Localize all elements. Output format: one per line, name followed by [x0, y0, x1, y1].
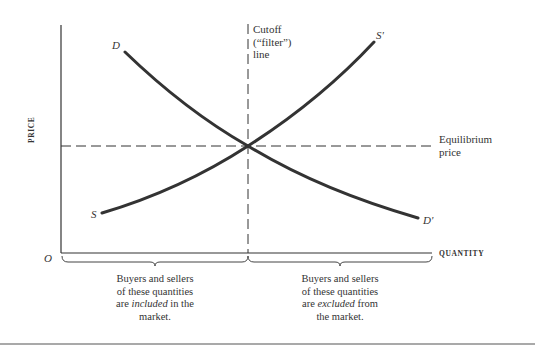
excluded-pre: are — [302, 298, 317, 309]
x-axis-label: QUANTITY — [439, 248, 484, 260]
cutoff-label-line2: (“filter”) — [253, 36, 291, 49]
excluded-caption-line2: of these quantities — [275, 286, 405, 299]
demand-start-label: D — [112, 39, 120, 51]
cutoff-label-line3: line — [253, 48, 291, 61]
demand-end-label: D' — [423, 214, 433, 226]
cutoff-label-line1: Cutoff — [253, 23, 291, 36]
excluded-post: from — [355, 298, 378, 309]
included-caption-line2: of these quantities — [90, 286, 220, 299]
equilibrium-price-label: Equilibrium price — [439, 133, 492, 158]
included-emphasis: included — [132, 298, 168, 309]
included-caption-line3: are included in the — [90, 298, 220, 311]
excluded-caption-line1: Buyers and sellers — [275, 273, 405, 286]
excluded-range-brace — [248, 256, 432, 266]
excluded-caption-line3: are excluded from — [275, 298, 405, 311]
supply-start-label: S — [91, 208, 97, 220]
included-post: in the — [168, 298, 194, 309]
included-pre: are — [116, 298, 131, 309]
supply-end-label: S' — [376, 29, 384, 41]
excluded-caption-line4: the market. — [275, 311, 405, 324]
excluded-caption: Buyers and sellers of these quantities a… — [275, 273, 405, 323]
equilibrium-label-line2: price — [439, 146, 492, 159]
demand-curve — [125, 52, 418, 218]
included-caption: Buyers and sellers of these quantities a… — [90, 273, 220, 323]
equilibrium-label-line1: Equilibrium — [439, 133, 492, 146]
included-caption-line1: Buyers and sellers — [90, 273, 220, 286]
included-range-brace — [62, 256, 248, 266]
cutoff-line-label: Cutoff (“filter”) line — [253, 23, 291, 61]
included-caption-line4: market. — [90, 311, 220, 324]
origin-label: O — [44, 252, 52, 264]
excluded-emphasis: excluded — [318, 298, 355, 309]
y-axis-label: PRICE — [26, 117, 38, 143]
